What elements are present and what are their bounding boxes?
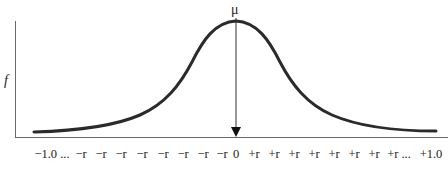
x-tick: −r [115, 147, 126, 162]
x-axis-ticks: −1.0 ... −r −r −r −r −r −r −r −r 0 +r +r… [0, 147, 448, 163]
x-tick: −r [197, 147, 208, 162]
bell-curve-figure: f μ −1.0 ... −r −r −r −r −r −r −r −r 0 +… [0, 0, 448, 169]
plot-area [0, 0, 448, 169]
x-tick: +r [348, 147, 359, 162]
x-tick: +r [248, 147, 259, 162]
x-tick-zero: 0 [233, 147, 239, 162]
y-axis-label: f [4, 74, 8, 87]
x-tick: −r [95, 147, 106, 162]
x-tick: +r [268, 147, 279, 162]
x-tick: −r [75, 147, 86, 162]
x-tick: −r [177, 147, 188, 162]
x-tick: −r [216, 147, 227, 162]
mu-label: μ [231, 3, 239, 16]
x-tick: +r [308, 147, 319, 162]
arrow-head-icon [231, 127, 241, 137]
x-tick: +r [328, 147, 339, 162]
x-tick: −r [136, 147, 147, 162]
x-tick: +r [288, 147, 299, 162]
x-tick: +r [368, 147, 379, 162]
x-tick: +1.0 [420, 147, 443, 162]
x-tick: −r [157, 147, 168, 162]
x-tick: +r ... [387, 147, 411, 162]
x-tick: −1.0 ... [34, 147, 69, 162]
bell-curve [34, 21, 436, 132]
